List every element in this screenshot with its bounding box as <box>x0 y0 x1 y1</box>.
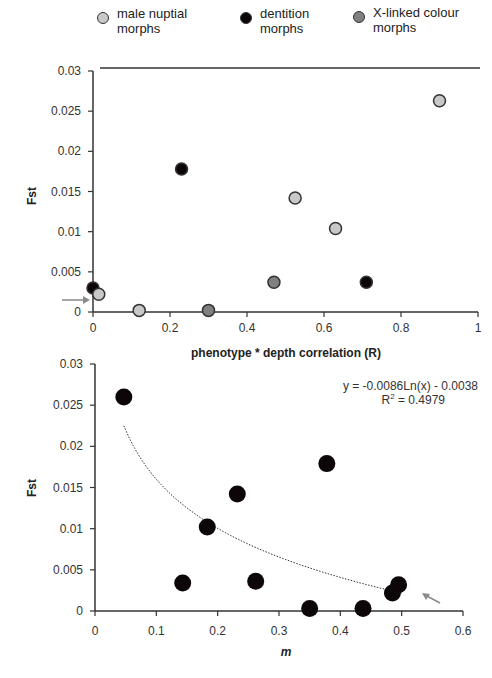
arrow-icon <box>422 593 440 603</box>
top-chart: 00.0050.010.0150.020.0250.0300.20.40.60.… <box>25 64 482 360</box>
data-point <box>289 192 301 204</box>
data-point <box>318 455 335 472</box>
data-point <box>203 304 215 316</box>
data-point <box>355 600 372 617</box>
data-point <box>268 276 280 288</box>
top-data-points <box>87 95 446 317</box>
arrow-icon <box>62 296 90 304</box>
x-tick-label: 0.6 <box>316 321 333 335</box>
data-point <box>229 486 246 503</box>
y-tick-label: 0.02 <box>60 439 84 453</box>
data-point <box>176 163 188 175</box>
x-tick-label: 0 <box>90 321 97 335</box>
y-tick-label: 0.025 <box>53 398 83 412</box>
y-tick-label: 0 <box>76 604 83 618</box>
data-point <box>390 576 407 593</box>
data-point <box>115 388 132 405</box>
data-point <box>93 288 105 300</box>
y-tick-label: 0.01 <box>58 225 82 239</box>
x-tick-label: 0.2 <box>209 624 226 638</box>
y-tick-label: 0.03 <box>58 64 82 78</box>
y-tick-label: 0.015 <box>53 481 83 495</box>
bottom-data-points <box>115 388 407 617</box>
x-tick-label: 0 <box>92 624 99 638</box>
y-tick-label: 0.025 <box>51 104 81 118</box>
y-tick-label: 0.01 <box>60 522 84 536</box>
data-point <box>133 304 145 316</box>
x-tick-label: 0.8 <box>393 321 410 335</box>
top-y-axis-title: Fst <box>25 187 39 205</box>
data-point <box>199 519 216 536</box>
charts-canvas: 00.0050.010.0150.020.0250.0300.20.40.60.… <box>0 0 492 678</box>
bottom-chart: 00.0050.010.0150.020.0250.0300.10.20.30.… <box>25 357 478 659</box>
x-tick-label: 0.1 <box>148 624 165 638</box>
x-tick-label: 0.2 <box>162 321 179 335</box>
top-x-axis-title: phenotype * depth correlation (R) <box>191 346 381 360</box>
x-tick-label: 0.3 <box>271 624 288 638</box>
y-tick-label: 0.005 <box>53 563 83 577</box>
y-tick-label: 0 <box>74 305 81 319</box>
x-tick-label: 1 <box>475 321 482 335</box>
x-tick-label: 0.4 <box>239 321 256 335</box>
bottom-y-axis-title: Fst <box>25 479 39 497</box>
x-tick-label: 0.4 <box>332 624 349 638</box>
y-tick-label: 0.03 <box>60 357 84 371</box>
data-point <box>360 276 372 288</box>
data-point <box>174 575 191 592</box>
x-tick-label: 0.6 <box>455 624 472 638</box>
bottom-x-axis-title: m <box>281 645 292 659</box>
data-point <box>330 222 342 234</box>
data-point <box>301 600 318 617</box>
top-axes: 00.0050.010.0150.020.0250.0300.20.40.60.… <box>51 64 482 335</box>
trendline <box>124 426 402 593</box>
data-point <box>247 573 264 590</box>
trendline-equation: y = -0.0086Ln(x) - 0.0038 <box>343 379 478 393</box>
y-tick-label: 0.02 <box>58 144 82 158</box>
y-tick-label: 0.015 <box>51 185 81 199</box>
x-tick-label: 0.5 <box>393 624 410 638</box>
y-tick-label: 0.005 <box>51 265 81 279</box>
r-squared-label: R2 = 0.4979 <box>381 392 445 407</box>
data-point <box>434 95 446 107</box>
